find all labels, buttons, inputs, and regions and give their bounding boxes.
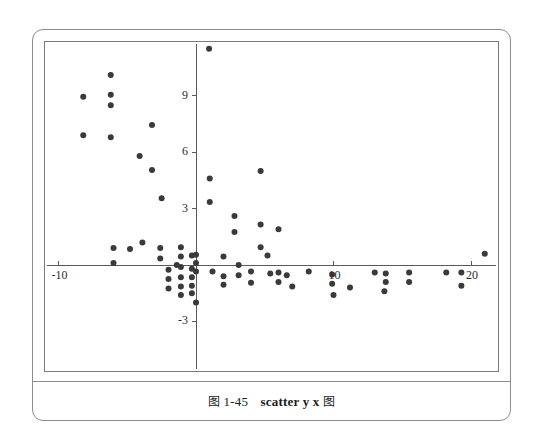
figure-container: -101020963-3 图 1-45 scatter y x 图 [0, 0, 543, 447]
caption-prefix-glyph: 图 [208, 395, 220, 409]
y-tick-label--3: -3 [160, 313, 188, 328]
x-tick-label--10: -10 [47, 268, 73, 283]
y-tick-label-3: 3 [160, 201, 188, 216]
y-tick-label-6: 6 [160, 144, 188, 159]
x-tick-label-20: 20 [459, 268, 485, 283]
figure-caption-text: 图 1-45 scatter y x 图 [208, 392, 335, 410]
x-tick-label-10: 10 [322, 268, 348, 283]
figure-caption-bar: 图 1-45 scatter y x 图 [32, 381, 511, 421]
y-tick-label-9: 9 [160, 88, 188, 103]
plot-frame [44, 41, 499, 372]
caption-suffix-glyph: 图 [323, 395, 335, 409]
caption-number: 1-45 [223, 394, 248, 409]
caption-command: scatter y x [261, 394, 320, 409]
